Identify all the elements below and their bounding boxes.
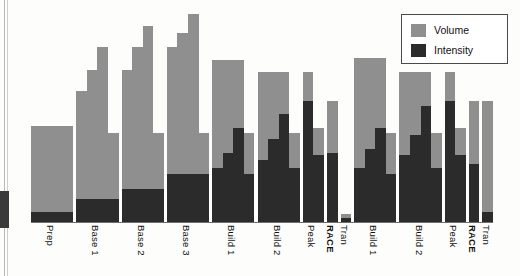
week-bar-intensity [386,174,397,222]
week-bar [354,58,365,222]
week-bar [76,91,87,222]
week-bar [327,101,338,222]
week-bar-intensity [244,174,255,222]
week-bar [268,72,279,222]
week-bar-intensity [199,174,210,222]
week-bar-intensity [87,199,98,222]
week-bar [279,72,290,222]
week-bar-intensity [223,153,234,222]
week-bar [167,47,178,222]
week-bar [431,133,442,222]
week-bar [289,133,300,222]
week-bar-intensity [279,114,290,222]
week-bar [212,60,223,222]
week-bar [42,126,53,222]
x-axis-label: Peak [448,225,459,247]
x-axis-label: RACE [467,225,478,253]
week-bar-intensity [212,168,223,222]
week-bar-intensity [52,212,63,222]
week-bar [199,133,210,222]
periodization-chart: PrepBase 1Base 2Base 3Build 1Build 2Peak… [0,0,520,276]
week-bar [445,72,456,222]
x-axis-label: Base 1 [90,225,101,256]
x-axis-label: Tran [481,225,492,245]
phase-block [258,14,300,222]
week-bar [63,126,74,222]
week-bar [386,133,397,222]
week-bar [87,70,98,222]
week-bar-intensity [455,155,466,222]
week-bar [365,58,376,222]
x-axis-labels: PrepBase 1Base 2Base 3Build 1Build 2Peak… [31,223,493,276]
week-bar-intensity [375,128,386,222]
week-bar [482,101,493,222]
week-bar [97,47,108,222]
week-bar [313,128,324,222]
week-bar-intensity [42,212,53,222]
week-bar [410,72,421,222]
week-bar [341,214,352,222]
week-bar [153,133,164,222]
x-axis-label: Peak [306,225,317,247]
x-axis-label: Tran [339,225,350,245]
page-margin-rule [4,0,5,276]
week-bar-intensity [431,168,442,222]
week-bar [31,126,42,222]
week-bar-intensity [445,101,456,222]
x-axis-label: Prep [45,225,56,246]
x-axis-label: Build 1 [226,225,237,255]
week-bar [469,101,480,222]
week-bar [375,58,386,222]
week-bar [108,133,119,222]
phase-block [303,14,324,222]
x-axis-label: Build 1 [368,225,379,255]
phase-block [122,14,164,222]
week-bar-intensity [97,199,108,222]
page-margin-tab [0,191,9,228]
week-bar-intensity [469,164,480,222]
week-bar-intensity [354,168,365,222]
week-bar-intensity [399,155,410,222]
week-bar-intensity [167,174,178,222]
x-axis-label: Base 2 [136,225,147,256]
week-bar-intensity [482,212,493,222]
phase-block [31,14,73,222]
week-bar [188,14,199,222]
x-axis-label: Build 2 [272,225,283,255]
week-bar [258,72,269,222]
week-bar [52,126,63,222]
week-bar [244,133,255,222]
week-bar [177,33,188,222]
week-bar [455,128,466,222]
week-bar-intensity [233,128,244,222]
phase-block [167,14,209,222]
week-bar-intensity [289,168,300,222]
week-bar-intensity [410,135,421,222]
week-bar-intensity [303,101,314,222]
week-bar [233,60,244,222]
week-bar [303,72,314,222]
week-bar-intensity [268,139,279,222]
week-bar [132,47,143,222]
week-bar [421,72,432,222]
phase-block [76,14,118,222]
week-bar [399,72,410,222]
x-axis-label: RACE [325,225,336,253]
week-bar-intensity [63,212,74,222]
week-bar [122,70,133,222]
legend-item-volume: Volume [411,21,501,39]
phase-block [327,14,338,222]
legend-swatch-volume [411,24,426,37]
week-bar-intensity [177,174,188,222]
week-bar-intensity [153,189,164,222]
page-margin-rule-secondary [7,0,8,276]
week-bar-intensity [313,155,324,222]
week-bar-intensity [188,174,199,222]
week-bar-intensity [421,106,432,222]
week-bar-intensity [132,189,143,222]
week-bar [223,60,234,222]
week-bar-intensity [143,189,154,222]
week-bar-intensity [31,212,42,222]
week-bar-intensity [108,199,119,222]
week-bar-intensity [258,160,269,222]
